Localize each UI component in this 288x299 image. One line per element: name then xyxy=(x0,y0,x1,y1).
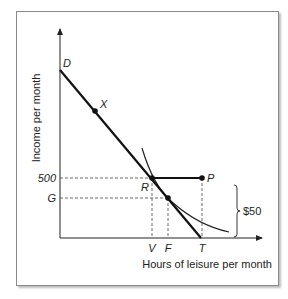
point-x xyxy=(92,108,98,114)
y-axis-label: Income per month xyxy=(30,74,42,163)
tick-v: V xyxy=(148,242,157,254)
guide-lines xyxy=(60,178,202,238)
label-d: D xyxy=(63,57,71,69)
labor-leisure-diagram: Income per month Hours of leisure per mo… xyxy=(0,0,288,299)
point-tangency xyxy=(165,195,171,201)
point-r xyxy=(149,175,155,181)
tick-f: F xyxy=(165,242,173,254)
bracket-label: $50 xyxy=(243,205,261,217)
label-x: X xyxy=(99,98,108,110)
budget-line xyxy=(60,70,201,238)
fifty-dollar-bracket xyxy=(234,185,240,237)
label-p: P xyxy=(207,172,215,184)
tick-t: T xyxy=(199,242,207,254)
tick-500: 500 xyxy=(38,172,57,184)
x-axis-label: Hours of leisure per month xyxy=(142,258,272,270)
point-p xyxy=(199,175,205,181)
label-r: R xyxy=(141,181,149,193)
tick-g: G xyxy=(47,192,56,204)
